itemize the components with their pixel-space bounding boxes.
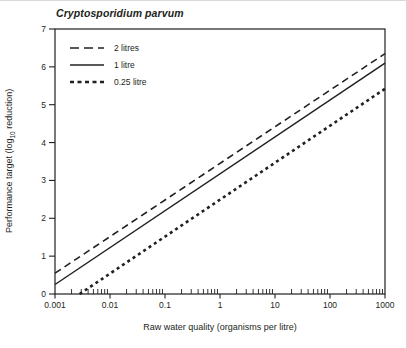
x-tick-label: 0.01 [102, 300, 119, 310]
x-axis-label: Raw water quality (organisms per litre) [55, 322, 385, 332]
figure-container: Cryptosporidium parvum 012345670.0010.01… [0, 0, 407, 348]
y-axis-label-text-end: reduction) [4, 89, 14, 132]
chart-plot-area: 012345670.0010.010.11101001000 [0, 1, 407, 348]
legend-label-1-litre: 1 litre [114, 60, 135, 70]
x-tick-label: 1 [218, 300, 223, 310]
legend-line-sample-2-litres [70, 43, 104, 53]
legend-label-0-25-litre: 0.25 litre [114, 77, 147, 87]
y-tick-label: 4 [41, 138, 46, 148]
y-tick-label: 6 [41, 62, 46, 72]
x-tick-label: 100 [323, 300, 337, 310]
series-line-0-25-litre [80, 89, 385, 294]
x-tick-label: 0.001 [44, 300, 66, 310]
y-axis-label-text: Performance target (log [4, 139, 14, 234]
x-tick-label: 10 [270, 300, 280, 310]
legend-item-2-litres: 2 litres [70, 39, 147, 56]
legend: 2 litres1 litre0.25 litre [70, 39, 147, 90]
y-axis-label: Performance target (log10 reduction) [4, 11, 16, 311]
legend-label-2-litres: 2 litres [114, 43, 139, 53]
legend-line-sample-0-25-litre [70, 77, 104, 87]
y-tick-label: 2 [41, 213, 46, 223]
x-tick-label: 0.1 [159, 300, 171, 310]
series-line-1-litre [55, 63, 385, 284]
y-axis-label-subscript: 10 [9, 131, 16, 138]
y-tick-label: 5 [41, 100, 46, 110]
x-tick-label: 1000 [376, 300, 395, 310]
y-tick-label: 3 [41, 175, 46, 185]
legend-item-0-25-litre: 0.25 litre [70, 73, 147, 90]
legend-line-sample-1-litre [70, 60, 104, 70]
y-tick-label: 0 [41, 289, 46, 299]
y-tick-label: 7 [41, 24, 46, 34]
y-tick-label: 1 [41, 251, 46, 261]
legend-item-1-litre: 1 litre [70, 56, 147, 73]
